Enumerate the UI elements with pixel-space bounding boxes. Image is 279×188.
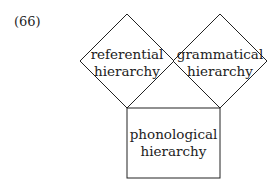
phonological-line1: phonological — [127, 126, 220, 143]
referential-hierarchy-label: referential hierarchy — [82, 46, 172, 80]
grammatical-line2: hierarchy — [175, 63, 265, 80]
grammatical-line1: grammatical — [175, 46, 265, 63]
grammatical-hierarchy-label: grammatical hierarchy — [175, 46, 265, 80]
referential-line1: referential — [82, 46, 172, 63]
phonological-hierarchy-label: phonological hierarchy — [127, 126, 220, 160]
referential-line2: hierarchy — [82, 63, 172, 80]
phonological-line2: hierarchy — [127, 143, 220, 160]
